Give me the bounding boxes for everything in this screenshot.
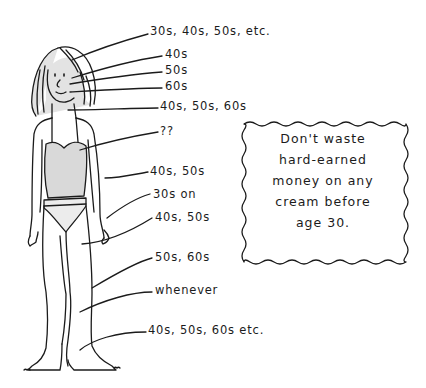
callout-mouth: 60s (165, 81, 188, 93)
callout-forehead: 40s (165, 49, 188, 61)
callout-knees: 50s, 60s (155, 252, 210, 264)
cartoon-illustration: 30s, 40s, 50s, etc. 40s 50s 60s 40s, 50s… (0, 0, 426, 388)
leader-line-chest (80, 132, 158, 150)
note-line: age 30. (246, 212, 400, 233)
leader-line-arms (105, 172, 148, 178)
callout-chest: ?? (160, 126, 174, 138)
callout-hair: 30s, 40s, 50s, etc. (150, 26, 271, 38)
note-line: cream before (246, 191, 400, 212)
leader-line-feet (80, 332, 146, 350)
callout-eyes: 50s (165, 65, 188, 77)
callout-hands: 30s on (153, 189, 196, 201)
leader-line-forehead (72, 56, 162, 78)
note-line: hard-earned (246, 149, 400, 170)
callout-neck: 40s, 50s, 60s (160, 101, 247, 113)
leader-line-knees (92, 258, 152, 288)
note-line: Don't waste (246, 128, 400, 149)
callout-arms: 40s, 50s (150, 166, 205, 178)
leader-line-shins (80, 292, 152, 312)
callout-shins: whenever (155, 285, 218, 297)
leader-line-hair (72, 34, 148, 60)
note-line: money on any (246, 170, 400, 191)
advice-note: Don't waste hard-earned money on any cre… (246, 128, 400, 233)
callout-feet: 40s, 50s, 60s etc. (148, 325, 264, 337)
leader-line-hands (107, 194, 150, 218)
leader-line-neck (68, 108, 158, 110)
leader-line-thighs (82, 218, 152, 244)
callout-thighs: 40s, 50s (155, 212, 210, 224)
